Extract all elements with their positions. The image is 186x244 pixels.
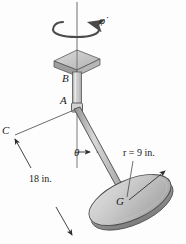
figure-drawing: [0, 0, 186, 244]
mechanics-figure: B A C G θ φ̇ 18 in. r = 9 in.: [0, 0, 186, 244]
label-point-c: C: [2, 125, 9, 136]
label-point-a: A: [60, 95, 67, 106]
label-point-b: B: [62, 73, 69, 84]
label-radius-dimension: r = 9 in.: [123, 148, 155, 158]
disk: [82, 164, 181, 241]
label-point-g: G: [116, 196, 124, 207]
label-angle-theta: θ: [74, 147, 79, 158]
label-spin-rate: φ̇: [99, 15, 105, 26]
length-dimension-line: [15, 139, 72, 235]
label-length-dimension: 18 in.: [29, 174, 52, 184]
line-a-to-c: [15, 110, 74, 135]
spin-arrow-icon: [53, 22, 99, 37]
